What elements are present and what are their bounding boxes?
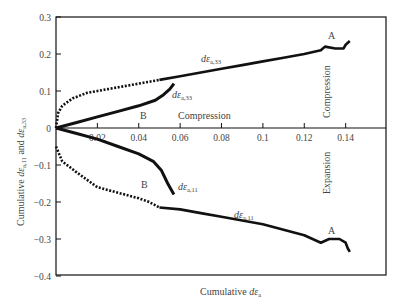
x-axis-title: Cumulative dεa [200, 286, 261, 298]
label-expansion-vertical: Expansion [321, 152, 332, 194]
x-tick-label: 0.14 [337, 133, 354, 143]
x-tick-label: 0.06 [172, 133, 189, 143]
series-line [56, 128, 174, 195]
x-tick-label: 0.12 [296, 133, 313, 143]
label-de-a11-a: dεa,11 [234, 209, 254, 221]
y-tick-label: 0.1 [39, 87, 51, 97]
x-axis-ticks: 0.020.040.060.080.10.120.14 [89, 123, 354, 143]
y-axis-title: Cumulative dεa,11 and dεa,33 [15, 118, 27, 226]
label-de-a33-b: dεa,33 [172, 89, 192, 101]
y-tick-label: 0.3 [39, 13, 51, 23]
label-a-lower-curve: A [328, 225, 336, 236]
series-line [56, 84, 174, 128]
label-compression-horizontal: Compression [178, 110, 231, 121]
y-tick-label: −0.3 [34, 235, 51, 245]
x-tick-label: 0.1 [257, 133, 269, 143]
data-series [56, 41, 350, 252]
plot-frame [56, 17, 386, 275]
label-b-upper-curve: B [140, 110, 147, 121]
label-de-a11-b: dεa,11 [178, 181, 198, 193]
label-a-upper-curve: A [328, 30, 336, 41]
series-line [159, 208, 349, 252]
x-tick-label: 0.08 [213, 133, 230, 143]
y-tick-label: 0.2 [39, 50, 51, 60]
label-compression-vertical: Compression [321, 65, 332, 118]
y-tick-label: −0.2 [34, 198, 51, 208]
label-b-lower-curve: B [141, 179, 148, 190]
chart: 0.30.20.10−0.1−0.2−0.3−0.4 0.020.040.060… [0, 0, 402, 307]
y-tick-label: −0.1 [34, 161, 51, 171]
y-tick-label: 0 [46, 124, 51, 134]
y-tick-label: −0.4 [34, 272, 51, 282]
label-de-a33-a: dεa,33 [201, 53, 221, 65]
x-tick-label: 0.04 [130, 133, 147, 143]
